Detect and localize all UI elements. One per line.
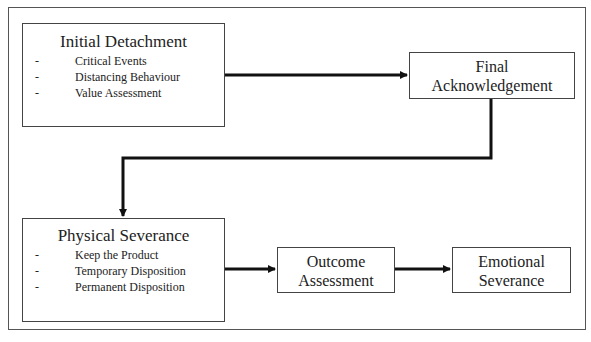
node-item-list: -Critical Events -Distancing Behaviour -… xyxy=(23,53,224,101)
node-title: Physical Severance xyxy=(23,226,224,245)
node-outcome-assessment: Outcome Assessment xyxy=(277,247,395,293)
node-title-line2: Acknowledgement xyxy=(410,76,574,95)
list-item: -Temporary Disposition xyxy=(23,263,224,279)
list-item: -Critical Events xyxy=(23,53,224,69)
node-emotional-severance: Emotional Severance xyxy=(452,247,571,293)
node-title-line2: Severance xyxy=(453,271,570,290)
list-item: -Keep the Product xyxy=(23,247,224,263)
node-title-line1: Final xyxy=(410,57,574,76)
node-physical-severance: Physical Severance -Keep the Product -Te… xyxy=(22,218,225,322)
list-item: -Distancing Behaviour xyxy=(23,69,224,85)
node-title: Initial Detachment xyxy=(23,32,224,51)
node-title-line1: Outcome xyxy=(278,252,394,271)
node-initial-detachment: Initial Detachment -Critical Events -Dis… xyxy=(22,23,225,127)
node-title-line1: Emotional xyxy=(453,252,570,271)
node-final-acknowledgement: Final Acknowledgement xyxy=(409,52,575,99)
list-item: -Permanent Disposition xyxy=(23,279,224,295)
node-item-list: -Keep the Product -Temporary Disposition… xyxy=(23,247,224,295)
node-title-line2: Assessment xyxy=(278,271,394,290)
list-item: -Value Assessment xyxy=(23,85,224,101)
